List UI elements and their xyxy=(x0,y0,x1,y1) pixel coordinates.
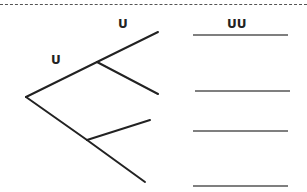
branch-lower-top xyxy=(87,120,150,140)
tree-diagram: U U UU xyxy=(0,0,307,192)
branch-root-upper xyxy=(26,62,97,97)
label-answer-header: UU xyxy=(227,17,247,31)
branch-root-lower xyxy=(26,97,87,140)
tree-branches xyxy=(26,32,158,182)
branch-lower-bottom xyxy=(87,140,145,182)
label-branch-top: U xyxy=(118,17,128,31)
label-branch-upper: U xyxy=(51,53,61,67)
branch-upper-top xyxy=(97,32,158,62)
branch-upper-bottom xyxy=(97,62,158,94)
answer-lines xyxy=(193,35,290,186)
